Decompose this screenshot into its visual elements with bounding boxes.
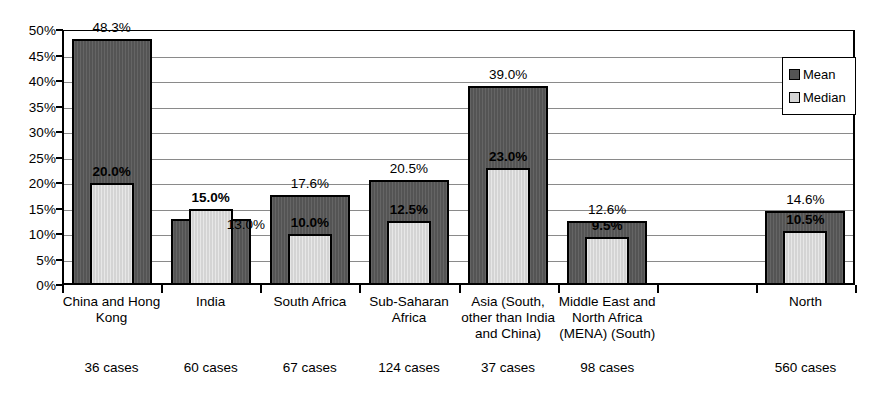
bar-value-label-mean: 20.5% bbox=[364, 161, 454, 176]
bar-value-label-mean: 17.6% bbox=[265, 176, 355, 191]
bar-group: 48.3%20.0% bbox=[62, 30, 161, 285]
bar-group: 12.6%9.5% bbox=[558, 30, 657, 285]
bar-group: 39.0%23.0% bbox=[459, 30, 558, 285]
bar-median bbox=[90, 183, 134, 285]
bar-value-label-mean: 48.3% bbox=[67, 20, 157, 35]
legend-label-median: Median bbox=[803, 91, 846, 104]
y-axis-tick-label: 35% bbox=[29, 99, 56, 114]
bar-median bbox=[387, 221, 431, 285]
legend-item-median: Median bbox=[789, 86, 855, 109]
y-axis-tick-label: 50% bbox=[29, 23, 56, 38]
y-axis-tick-label: 25% bbox=[29, 150, 56, 165]
bar-median bbox=[288, 234, 332, 285]
y-axis-tick-label: 40% bbox=[29, 74, 56, 89]
legend-swatch-mean-icon bbox=[789, 69, 800, 80]
y-axis-tick-label: 0% bbox=[36, 278, 56, 293]
legend-label-mean: Mean bbox=[803, 68, 836, 81]
chart-legend: Mean Median bbox=[782, 57, 856, 115]
x-axis-tick-mark bbox=[161, 285, 163, 293]
x-axis-category-label: Middle East and North Africa (MENA) (Sou… bbox=[545, 294, 670, 342]
x-axis-case-count-label: 560 cases bbox=[743, 360, 868, 376]
bar-median bbox=[585, 237, 629, 285]
bar-median bbox=[486, 168, 530, 285]
legend-swatch-median-icon bbox=[789, 92, 800, 103]
x-axis-tick-mark bbox=[756, 285, 758, 293]
bar-chart: 0%5%10%15%20%25%30%35%40%45%50% 48.3%20.… bbox=[0, 0, 889, 397]
bar-value-label-mean: 14.6% bbox=[760, 192, 850, 207]
bar-value-label-median: 10.0% bbox=[265, 215, 355, 230]
x-axis-tick-mark bbox=[359, 285, 361, 293]
bar-median bbox=[783, 231, 827, 285]
bar-value-label-median: 9.5% bbox=[562, 218, 652, 233]
bars-layer: 48.3%20.0%13.0%15.0%17.6%10.0%20.5%12.5%… bbox=[62, 30, 855, 285]
bar-value-label-mean: 39.0% bbox=[463, 67, 553, 82]
y-axis-tick-label: 20% bbox=[29, 176, 56, 191]
x-axis-tick-mark bbox=[459, 285, 461, 293]
bar-value-label-median: 23.0% bbox=[463, 149, 553, 164]
bar-group: 20.5%12.5% bbox=[359, 30, 458, 285]
y-axis-tick-label: 45% bbox=[29, 48, 56, 63]
x-axis-tick-mark bbox=[855, 285, 857, 293]
y-axis-tick-label: 30% bbox=[29, 125, 56, 140]
bar-value-label-median: 20.0% bbox=[67, 164, 157, 179]
bar-value-label-mean: 12.6% bbox=[562, 202, 652, 217]
x-axis-tick-mark bbox=[62, 285, 64, 293]
legend-item-mean: Mean bbox=[789, 63, 855, 86]
bar-value-label-median: 12.5% bbox=[364, 202, 454, 217]
x-axis-tick-mark bbox=[657, 285, 659, 293]
y-axis: 0%5%10%15%20%25%30%35%40%45%50% bbox=[0, 0, 56, 285]
bar-group: 13.0%15.0% bbox=[161, 30, 260, 285]
bar-value-label-median: 10.5% bbox=[760, 212, 850, 227]
x-axis-category-label: North bbox=[743, 294, 868, 310]
y-axis-tick-label: 5% bbox=[36, 252, 56, 267]
x-axis-case-count-label: 98 cases bbox=[545, 360, 670, 376]
x-axis-tick-mark bbox=[260, 285, 262, 293]
x-axis-tick-mark bbox=[558, 285, 560, 293]
y-axis-tick-label: 15% bbox=[29, 201, 56, 216]
bar-group: 17.6%10.0% bbox=[260, 30, 359, 285]
y-axis-tick-label: 10% bbox=[29, 227, 56, 242]
bar-value-label-median: 15.0% bbox=[166, 190, 256, 205]
